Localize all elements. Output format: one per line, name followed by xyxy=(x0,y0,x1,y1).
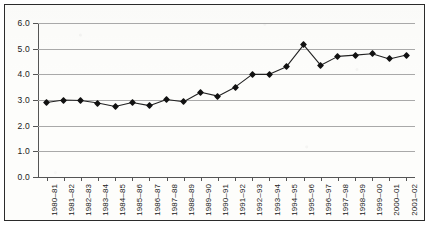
x-axis-tick xyxy=(252,177,253,181)
x-axis-tick-label: 1983–84 xyxy=(101,184,110,216)
x-axis-tick xyxy=(406,177,407,181)
x-axis-tick xyxy=(338,177,339,181)
x-axis-tick xyxy=(235,177,236,181)
y-axis-tick-label: 0.0 xyxy=(18,172,30,182)
x-axis-tick xyxy=(321,177,322,181)
x-axis-tick-label: 1990–91 xyxy=(221,184,230,216)
x-axis-tick xyxy=(184,177,185,181)
x-axis-tick-label: 2000–01 xyxy=(392,184,401,216)
x-axis-tick-label: 1982–83 xyxy=(84,184,93,216)
x-axis-tick xyxy=(372,177,373,181)
x-axis-tick-label: 1994–95 xyxy=(290,184,299,216)
x-axis-tick-label: 1991–92 xyxy=(238,184,247,216)
x-axis-tick-label: 1980–81 xyxy=(50,184,59,216)
y-axis-tick-label: 6.0 xyxy=(18,18,30,28)
x-axis-tick xyxy=(167,177,168,181)
x-axis-tick xyxy=(132,177,133,181)
x-axis-tick-label: 1984–85 xyxy=(118,184,127,216)
x-axis-tick-label: 2001–02 xyxy=(410,184,419,216)
y-axis-tick-label: 5.0 xyxy=(18,44,30,54)
chart-frame: 0.01.02.03.04.05.06.0 1980–811981–821982… xyxy=(4,4,425,221)
x-axis-tick-label: 1998–99 xyxy=(358,184,367,216)
x-axis-tick-label: 1987–88 xyxy=(170,184,179,216)
y-axis-tick-label: 4.0 xyxy=(18,69,30,79)
x-axis-tick xyxy=(389,177,390,181)
x-axis-tick xyxy=(64,177,65,181)
x-axis-tick xyxy=(47,177,48,181)
x-axis-tick xyxy=(115,177,116,181)
y-axis-tick xyxy=(33,177,38,178)
x-axis-tick-label: 1997–98 xyxy=(341,184,350,216)
x-axis-tick xyxy=(218,177,219,181)
gridline xyxy=(38,177,415,178)
x-axis-tick xyxy=(149,177,150,181)
x-axis-tick-label: 1996–97 xyxy=(324,184,333,216)
x-axis-tick xyxy=(81,177,82,181)
y-axis-tick-label: 1.0 xyxy=(18,146,30,156)
series-line xyxy=(38,23,415,177)
x-axis-tick-label: 1981–82 xyxy=(67,184,76,216)
x-axis-tick-label: 1992–93 xyxy=(255,184,264,216)
x-axis-tick xyxy=(286,177,287,181)
x-axis-tick xyxy=(355,177,356,181)
y-axis-tick-label: 2.0 xyxy=(18,121,30,131)
x-axis-tick-label: 1995–96 xyxy=(307,184,316,216)
x-axis-tick-label: 1999–00 xyxy=(375,184,384,216)
x-axis-tick-label: 1985–86 xyxy=(135,184,144,216)
x-axis-tick xyxy=(98,177,99,181)
x-axis-tick xyxy=(201,177,202,181)
x-axis-tick xyxy=(304,177,305,181)
plot-area: 0.01.02.03.04.05.06.0 1980–811981–821982… xyxy=(38,23,415,177)
x-axis-tick-label: 1986–87 xyxy=(153,184,162,216)
x-axis-tick-label: 1993–94 xyxy=(273,184,282,216)
y-axis-tick-label: 3.0 xyxy=(18,95,30,105)
x-axis-tick xyxy=(269,177,270,181)
x-axis-tick-label: 1989–90 xyxy=(204,184,213,216)
x-axis-tick-label: 1988–89 xyxy=(187,184,196,216)
